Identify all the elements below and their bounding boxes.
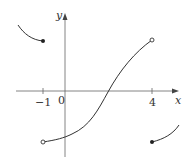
open-dot-left xyxy=(41,140,45,144)
closed-dot-left xyxy=(41,39,45,43)
y-axis-arrow-icon xyxy=(63,13,68,20)
x-axis-label: x xyxy=(175,94,182,107)
function-graph: −1 0 4 x y xyxy=(0,0,193,160)
closed-dot-right xyxy=(150,140,154,144)
y-axis-label: y xyxy=(55,9,63,22)
right-branch-curve xyxy=(152,125,179,142)
tick-label-minus-1: −1 xyxy=(35,96,51,109)
open-dot-right xyxy=(150,38,154,42)
tick-label-4: 4 xyxy=(149,96,156,109)
x-axis-arrow-icon xyxy=(172,89,179,94)
left-branch-curve xyxy=(18,25,43,41)
origin-label: 0 xyxy=(58,94,65,107)
